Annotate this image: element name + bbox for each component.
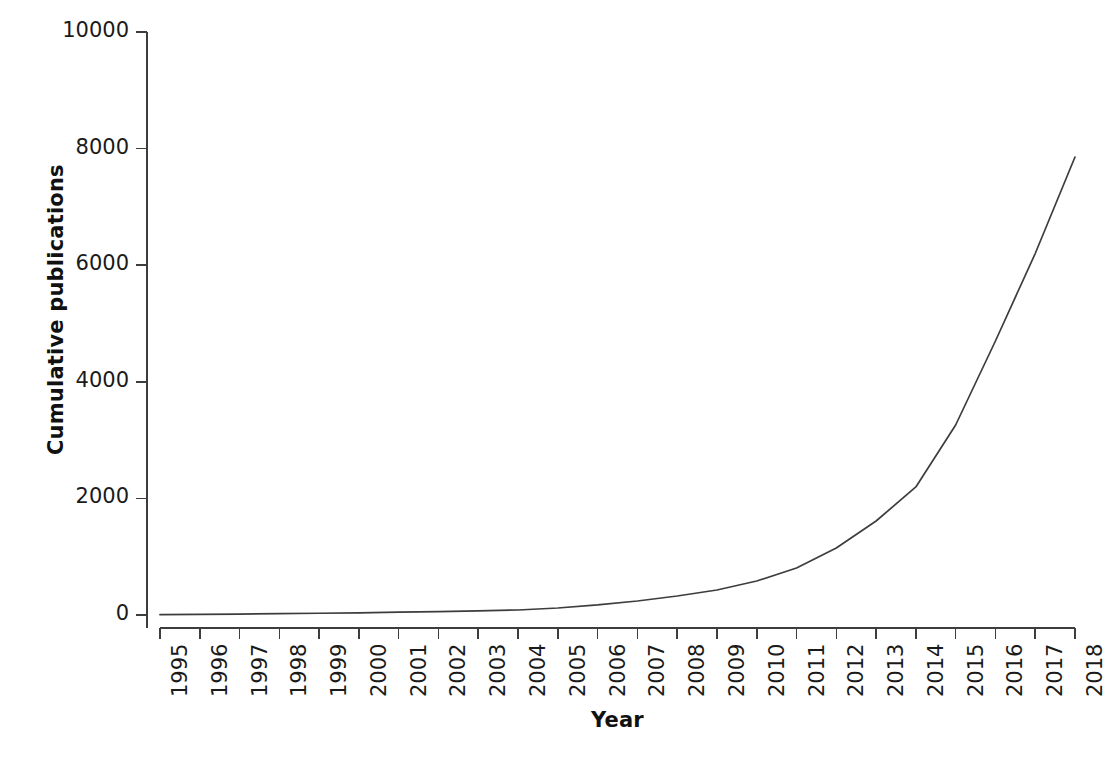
- chart-figure: Cumulative publications Year 02000400060…: [0, 0, 1109, 757]
- x-axis-tick-label: 2013: [884, 644, 908, 697]
- axes-group: [136, 32, 1075, 639]
- x-axis-tick-label: 2016: [1003, 644, 1027, 697]
- y-axis-tick-label: 6000: [76, 251, 129, 275]
- x-axis-tick-label: 2002: [446, 644, 470, 697]
- data-line-cumulative-publications: [160, 157, 1075, 615]
- y-axis-tick-label: 0: [116, 601, 129, 625]
- y-axis-tick-label: 8000: [76, 135, 129, 159]
- y-axis-tick-label: 4000: [76, 368, 129, 392]
- x-axis-tick-label: 1995: [168, 644, 192, 697]
- x-axis-tick-label: 2003: [486, 644, 510, 697]
- x-axis-tick-label: 2009: [725, 644, 749, 697]
- x-axis-tick-label: 2018: [1083, 644, 1107, 697]
- y-axis-tick-label: 10000: [62, 18, 129, 42]
- x-axis-tick-label: 2004: [526, 644, 550, 697]
- x-axis-tick-label: 2007: [645, 644, 669, 697]
- y-axis-tick-label: 2000: [76, 484, 129, 508]
- x-axis-tick-label: 2014: [924, 644, 948, 697]
- x-axis-title: Year: [63, 708, 1109, 732]
- x-axis-tick-label: 1996: [208, 644, 232, 697]
- x-axis-tick-label: 2005: [566, 644, 590, 697]
- x-axis-tick-label: 2011: [805, 644, 829, 697]
- x-axis-tick-label: 2008: [685, 644, 709, 697]
- x-axis-tick-label: 1998: [287, 644, 311, 697]
- x-axis-tick-label: 2001: [407, 644, 431, 697]
- x-axis-tick-label: 2006: [606, 644, 630, 697]
- x-axis-tick-label: 2010: [765, 644, 789, 697]
- y-axis-title: Cumulative publications: [44, 164, 68, 455]
- x-axis-tick-label: 2012: [844, 644, 868, 697]
- x-axis-tick-label: 1997: [248, 644, 272, 697]
- data-series-group: [160, 157, 1075, 615]
- x-axis-tick-label: 2000: [367, 644, 391, 697]
- x-axis-tick-label: 2017: [1043, 644, 1067, 697]
- x-axis-tick-label: 1999: [327, 644, 351, 697]
- x-axis-tick-label: 2015: [964, 644, 988, 697]
